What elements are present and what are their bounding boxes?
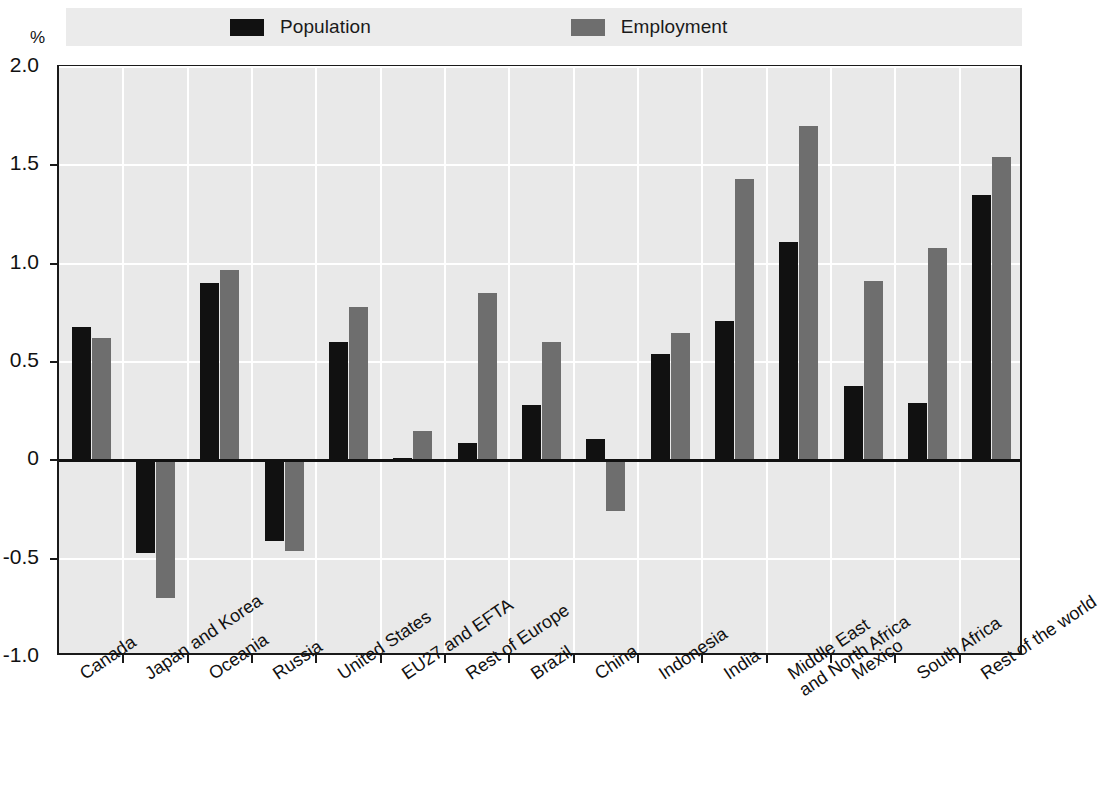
bar-group	[960, 67, 1024, 653]
bar-employment	[671, 333, 690, 461]
bar-employment	[735, 179, 754, 460]
y-axis-tick-label: 0	[0, 446, 39, 470]
y-axis-tick-label: -1.0	[0, 643, 39, 667]
x-axis-tick	[766, 653, 768, 663]
y-axis-tick-label: 2.0	[0, 53, 39, 77]
bar-employment	[799, 126, 818, 460]
bar-group	[509, 67, 573, 653]
bar-group	[252, 67, 316, 653]
bar-employment	[413, 431, 432, 461]
legend-label-employment: Employment	[621, 16, 728, 38]
bar-employment	[156, 460, 175, 598]
legend-item-employment: Employment	[571, 16, 728, 38]
y-axis-tick-label: 0.5	[0, 348, 39, 372]
legend-swatch-employment-icon	[571, 19, 605, 36]
bar-group	[381, 67, 445, 653]
legend-item-population: Population	[230, 16, 371, 38]
bar-group	[445, 67, 509, 653]
bar-group	[767, 67, 831, 653]
bar-group	[574, 67, 638, 653]
bar-group	[188, 67, 252, 653]
bar-employment	[928, 248, 947, 460]
bar-group	[831, 67, 895, 653]
bar-employment	[992, 157, 1011, 460]
y-axis-tick	[50, 361, 59, 363]
bar-population	[972, 195, 991, 461]
bar-employment	[542, 342, 561, 460]
y-axis-tick-label: 1.5	[0, 151, 39, 175]
bar-group	[638, 67, 702, 653]
bar-employment	[285, 460, 304, 550]
bar-group	[59, 67, 123, 653]
bar-employment	[606, 460, 625, 511]
bar-group	[895, 67, 959, 653]
chart-legend: Population Employment	[66, 8, 1022, 46]
bar-group	[702, 67, 766, 653]
plot-area	[57, 65, 1022, 655]
bar-population	[908, 403, 927, 460]
bar-population	[522, 405, 541, 460]
zero-baseline	[59, 459, 1020, 462]
bar-employment	[349, 307, 368, 460]
y-axis-tick	[50, 459, 59, 461]
y-axis-tick-label: 1.0	[0, 250, 39, 274]
bar-population	[265, 460, 284, 541]
bar-population	[329, 342, 348, 460]
y-axis-unit-label: %	[30, 28, 45, 48]
bar-employment	[478, 293, 497, 460]
legend-swatch-population-icon	[230, 19, 264, 36]
bar-group	[316, 67, 380, 653]
bar-population	[844, 386, 863, 461]
y-axis-tick	[50, 263, 59, 265]
legend-label-population: Population	[280, 16, 371, 38]
bar-population	[715, 321, 734, 461]
bar-employment	[864, 281, 883, 460]
bar-population	[72, 327, 91, 461]
bar-population	[458, 443, 477, 461]
bar-population	[651, 354, 670, 460]
bar-group	[123, 67, 187, 653]
bar-population	[136, 460, 155, 552]
y-axis-tick	[50, 164, 59, 166]
bar-population	[200, 283, 219, 460]
bar-employment	[92, 338, 111, 460]
y-axis-tick	[50, 558, 59, 560]
bar-population	[779, 242, 798, 460]
bar-population	[586, 439, 605, 461]
y-axis-tick-label: -0.5	[0, 545, 39, 569]
bar-employment	[220, 270, 239, 461]
